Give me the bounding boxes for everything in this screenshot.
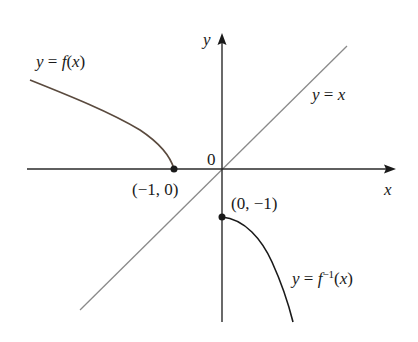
f-curve-label: f y = f(x): [36, 53, 85, 70]
point-neg1-0-label: (−1, 0): [132, 181, 178, 198]
curve-f-inverse: [222, 217, 293, 322]
inverse-function-diagram: f y = f(x) y x 0 y = x (−1, 0) (0, −1) y…: [0, 0, 418, 342]
point-0-neg1: [219, 214, 226, 221]
point-0-neg1-label: (0, −1): [231, 195, 277, 212]
curve-f: [30, 80, 174, 169]
point-neg1-0: [171, 166, 178, 173]
f-inverse-curve-label: y = f−1(x): [292, 269, 353, 287]
origin-label: 0: [207, 151, 216, 168]
identity-line-label: y = x: [312, 86, 345, 103]
x-axis-label: x: [384, 181, 392, 198]
y-axis-label: y: [203, 31, 211, 48]
